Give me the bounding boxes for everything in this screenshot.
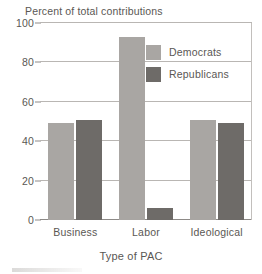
y-tick-label-40: 40 [0, 135, 34, 147]
legend-item-republicans: Republicans [146, 63, 229, 85]
bar-ideological-democrats [190, 120, 216, 220]
legend-item-democrats: Democrats [146, 41, 229, 63]
chart-legend: Democrats Republicans [146, 41, 229, 85]
legend-label-democrats: Democrats [169, 46, 222, 58]
y-tick-label-20: 20 [0, 175, 34, 187]
y-tick-label-100: 100 [0, 17, 34, 29]
legend-swatch-republicans [146, 67, 161, 82]
x-axis-label-labor: Labor [132, 226, 160, 238]
x-axis-title: Type of PAC [0, 250, 262, 262]
bar-business-democrats [48, 123, 74, 220]
bar-chart-figure: Percent of total contributions 020406080… [0, 0, 262, 274]
bar-labor-republicans [147, 208, 173, 220]
scan-artifact [12, 268, 82, 272]
bar-ideological-republicans [218, 123, 244, 220]
y-tick-label-0: 0 [0, 214, 34, 226]
x-axis-label-ideological: Ideological [190, 226, 242, 238]
y-tick-label-60: 60 [0, 96, 34, 108]
y-tick-label-80: 80 [0, 56, 34, 68]
legend-swatch-democrats [146, 45, 161, 60]
bar-business-republicans [76, 120, 102, 220]
bar-labor-democrats [119, 37, 145, 220]
x-axis-label-business: Business [53, 226, 97, 238]
legend-label-republicans: Republicans [169, 68, 229, 80]
y-axis-title: Percent of total contributions [25, 5, 163, 17]
